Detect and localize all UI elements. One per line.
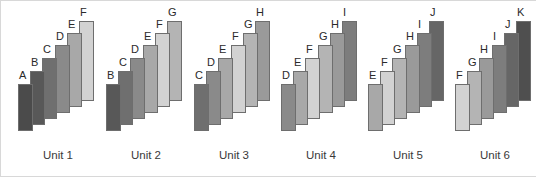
unit-group: EFGHIJUnit 5 xyxy=(368,0,448,177)
bar-label: C xyxy=(43,44,51,55)
bar-label: F xyxy=(156,19,163,30)
unit-caption: Unit 2 xyxy=(106,148,186,162)
bar-label: F xyxy=(80,7,87,18)
bar-label: H xyxy=(256,7,264,18)
bar-label: D xyxy=(131,44,139,55)
unit-caption: Unit 4 xyxy=(281,148,361,162)
unit-caption: Unit 3 xyxy=(194,148,274,162)
bar-label: F xyxy=(232,31,239,42)
bar-label: E xyxy=(68,19,75,30)
bar-stack: FGHIJK xyxy=(455,0,535,140)
bar-stack: ABCDEF xyxy=(18,0,98,140)
bar-label: D xyxy=(207,57,215,68)
bar-label: G xyxy=(168,7,177,18)
bar-label: G xyxy=(244,19,253,30)
bar-label: H xyxy=(480,44,488,55)
bar xyxy=(281,84,296,131)
bar-label: C xyxy=(119,57,127,68)
bar-label: B xyxy=(107,70,114,81)
bar-label: G xyxy=(319,31,328,42)
unit-caption: Unit 1 xyxy=(18,148,98,162)
bar-label: J xyxy=(430,7,436,18)
bar-label: I xyxy=(493,31,496,42)
bar-label: B xyxy=(31,57,38,68)
bar xyxy=(405,45,420,113)
unit-caption: Unit 5 xyxy=(368,148,448,162)
bar-stack: DEFGHI xyxy=(281,0,361,140)
bar xyxy=(55,45,70,113)
bar-stack: CDEFGH xyxy=(194,0,274,140)
bar xyxy=(194,84,209,131)
unit-group: ABCDEFUnit 1 xyxy=(18,0,98,177)
bar xyxy=(231,45,246,113)
unit-group: DEFGHIUnit 4 xyxy=(281,0,361,177)
unit-caption: Unit 6 xyxy=(455,148,535,162)
bar xyxy=(106,84,121,131)
bar-label: G xyxy=(393,44,402,55)
bar xyxy=(455,84,470,131)
bar-label: E xyxy=(369,70,376,81)
bar-label: E xyxy=(219,44,226,55)
bar xyxy=(18,84,33,131)
bar-label: A xyxy=(19,70,26,81)
bar-label: D xyxy=(56,31,64,42)
bar-label: C xyxy=(195,70,203,81)
bar-label: I xyxy=(343,7,346,18)
bar-label: J xyxy=(505,19,511,30)
bar-label: F xyxy=(306,44,313,55)
bar-label: F xyxy=(381,57,388,68)
unit-group: CDEFGHUnit 3 xyxy=(194,0,274,177)
bar-label: H xyxy=(331,19,339,30)
bar xyxy=(318,45,333,113)
bar-stack: EFGHIJ xyxy=(368,0,448,140)
bar-label: K xyxy=(517,7,524,18)
bar-label: F xyxy=(456,70,463,81)
bar xyxy=(492,45,507,113)
bar-label: H xyxy=(406,31,414,42)
unit-group: BCDEFGUnit 2 xyxy=(106,0,186,177)
bar-label: E xyxy=(294,57,301,68)
unit-group: FGHIJKUnit 6 xyxy=(455,0,535,177)
bar xyxy=(368,84,383,131)
bar-label: E xyxy=(144,31,151,42)
bar-label: G xyxy=(468,57,477,68)
unit-staircase-figure: ABCDEFUnit 1BCDEFGUnit 2CDEFGHUnit 3DEFG… xyxy=(0,0,536,177)
figure-border-left xyxy=(0,0,1,177)
bar-label: D xyxy=(282,70,290,81)
bar-stack: BCDEFG xyxy=(106,0,186,140)
bar-label: I xyxy=(418,19,421,30)
bar xyxy=(143,45,158,113)
